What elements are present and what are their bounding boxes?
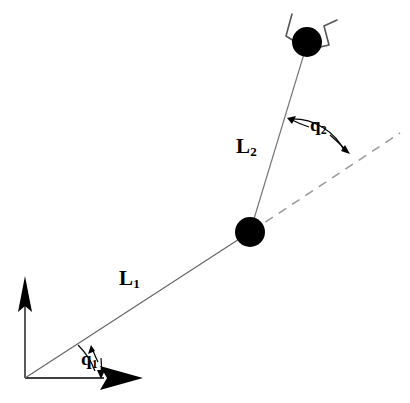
angle2-label-text: q: [310, 114, 321, 135]
link1-label-sub: 1: [133, 276, 140, 291]
link1-line: [25, 232, 250, 378]
link1-extension-dashed-line: [252, 133, 400, 231]
angle1-label-text: q: [81, 348, 92, 369]
angle1-label: q1: [81, 349, 97, 368]
end-effector-joint: [292, 27, 322, 57]
x-axis-arrowhead-icon: [100, 366, 143, 390]
elbow-joint: [235, 217, 265, 247]
angle1-label-sub: 1: [92, 358, 98, 371]
coordinate-frame: [18, 276, 143, 390]
figure-canvas: L1 L2 q1 q2: [0, 0, 410, 403]
link2-label: L2: [236, 136, 257, 157]
diagram-svg: [0, 0, 410, 403]
angle2-label: q2: [310, 115, 326, 134]
angle2-label-sub: 2: [321, 124, 327, 137]
link1-label-text: L: [119, 266, 133, 290]
angle2-leader-left-arrowhead-icon: [287, 116, 296, 124]
link2-label-text: L: [236, 134, 250, 158]
link2-label-sub: 2: [250, 144, 257, 159]
link1-label: L1: [119, 268, 140, 289]
link2-line: [250, 44, 307, 232]
